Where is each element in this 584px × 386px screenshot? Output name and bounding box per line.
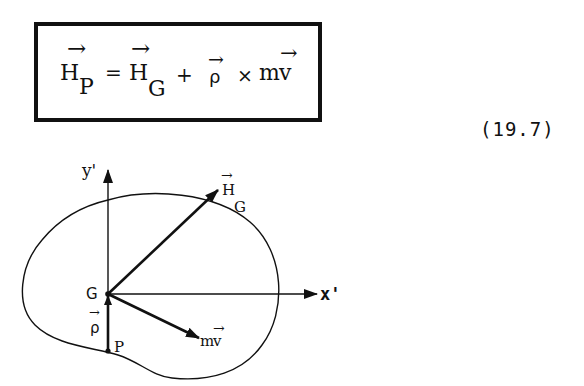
mv-vector [108, 294, 199, 338]
x-axis-label: x' [320, 284, 340, 304]
origin-label: G [86, 285, 98, 303]
rho-label-arrow: → [89, 305, 100, 320]
y-axis-label: y' [81, 160, 96, 180]
point-p-label: P [114, 338, 124, 356]
mv-label-velocity: v [212, 332, 222, 350]
hg-label-subscript: G [234, 198, 246, 216]
hg-vector [108, 190, 218, 294]
rigid-body-diagram: y' x' G → ρ P → H G m → v [0, 0, 584, 386]
body-outline [22, 194, 278, 379]
point-p [105, 348, 110, 353]
hg-label-symbol: H [222, 181, 235, 199]
point-g [105, 291, 111, 297]
rho-label: ρ [90, 319, 100, 337]
